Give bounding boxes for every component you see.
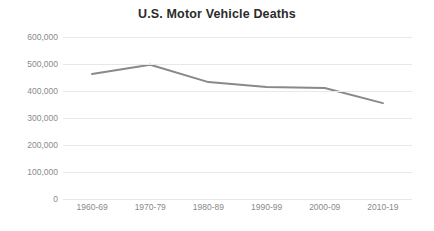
x-tick-label: 1990-99	[238, 202, 296, 213]
x-tick-label: 1980-89	[179, 202, 237, 213]
y-tick-label: 400,000	[2, 87, 58, 96]
series-line-us-motor-vehicle-deaths	[92, 65, 383, 103]
gridline	[63, 118, 412, 119]
gridline	[63, 199, 412, 200]
y-tick-label: 300,000	[2, 114, 58, 123]
x-tick-label: 1960-69	[63, 202, 121, 213]
x-axis: 1960-691970-791980-891990-992000-092010-…	[63, 202, 412, 218]
y-tick-label: 0	[2, 195, 58, 204]
y-axis: 0100,000200,000300,000400,000500,000600,…	[0, 0, 58, 231]
x-tick-label: 2010-19	[354, 202, 412, 213]
gridline	[63, 145, 412, 146]
y-tick-label: 100,000	[2, 168, 58, 177]
gridline	[63, 37, 412, 38]
plot-area	[63, 37, 412, 199]
y-tick-label: 600,000	[2, 33, 58, 42]
x-tick-label: 1970-79	[121, 202, 179, 213]
chart-title: U.S. Motor Vehicle Deaths	[0, 6, 434, 22]
gridline	[63, 172, 412, 173]
y-tick-label: 200,000	[2, 141, 58, 150]
x-tick-label: 2000-09	[296, 202, 354, 213]
y-tick-label: 500,000	[2, 60, 58, 69]
chart-figure: U.S. Motor Vehicle Deaths 0100,000200,00…	[0, 0, 434, 231]
gridline	[63, 64, 412, 65]
gridline	[63, 91, 412, 92]
